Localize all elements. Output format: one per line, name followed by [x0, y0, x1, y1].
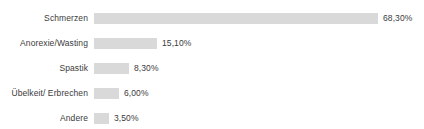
- bar-chart: Schmerzen 68,30% Anorexie/Wasting 15,10%…: [0, 0, 424, 129]
- category-label: Anorexie/Wasting: [0, 38, 88, 49]
- bar-track: 8,30%: [94, 63, 424, 74]
- bar-track: 15,10%: [94, 38, 424, 49]
- category-label: Schmerzen: [0, 13, 88, 24]
- bar-track: 68,30%: [94, 13, 424, 24]
- bar-value-label: 68,30%: [383, 13, 412, 24]
- bar-fill-spastik[interactable]: [94, 63, 129, 74]
- category-label: Andere: [0, 113, 88, 124]
- bar-value-label: 15,10%: [162, 38, 191, 49]
- category-label: Spastik: [0, 63, 88, 74]
- bar-row[interactable]: Anorexie/Wasting 15,10%: [0, 31, 424, 56]
- bar-track: 6,00%: [94, 88, 424, 99]
- plot-area: Schmerzen 68,30% Anorexie/Wasting 15,10%…: [0, 0, 424, 129]
- bar-row[interactable]: Schmerzen 68,30%: [0, 6, 424, 31]
- bar-row[interactable]: Übelkeit/ Erbrechen 6,00%: [0, 81, 424, 106]
- category-label: Übelkeit/ Erbrechen: [0, 88, 88, 99]
- bar-value-label: 3,50%: [114, 113, 139, 124]
- bar-track: 3,50%: [94, 113, 424, 124]
- bar-value-label: 6,00%: [124, 88, 149, 99]
- bar-row[interactable]: Andere 3,50%: [0, 106, 424, 129]
- bar-fill-andere[interactable]: [94, 113, 109, 124]
- bar-fill-schmerzen[interactable]: [94, 13, 378, 24]
- bar-value-label: 8,30%: [134, 63, 159, 74]
- bar-row[interactable]: Spastik 8,30%: [0, 56, 424, 81]
- bar-fill-anorexie-wasting[interactable]: [94, 38, 157, 49]
- bar-fill-uebelkeit-erbrechen[interactable]: [94, 88, 119, 99]
